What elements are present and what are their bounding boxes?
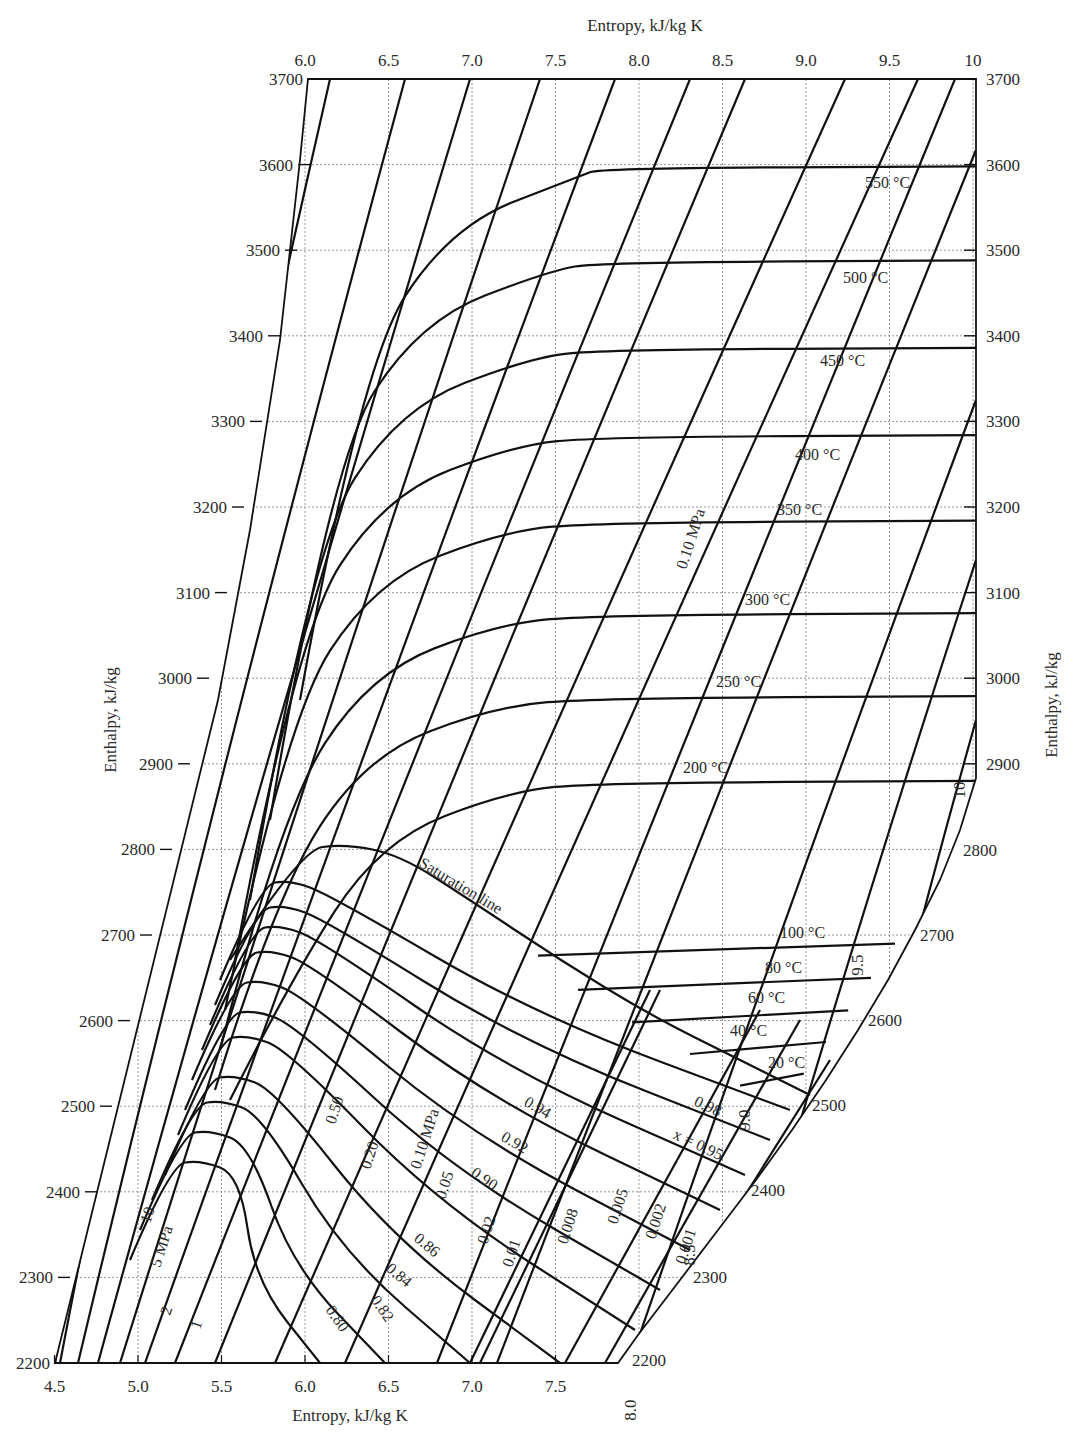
top-x-tick-label: 6.0 xyxy=(294,51,315,70)
isobar-label: 0.20 xyxy=(357,1139,382,1171)
quality-line xyxy=(215,907,770,1140)
right-y-tick-label: 3700 xyxy=(986,70,1020,89)
right-y-tick-label: 3100 xyxy=(986,584,1020,603)
isotherm-label: 400 °C xyxy=(795,446,840,463)
bottom-x-tick-label: 7.5 xyxy=(545,1377,566,1396)
isobar-label: 0.008 xyxy=(554,1206,581,1245)
right-y-tick-label: 3400 xyxy=(986,327,1020,346)
low-pressure-isobar xyxy=(480,990,660,1363)
left-y-tick-label: 2300 xyxy=(19,1268,53,1287)
right-y-tick-label: 3000 xyxy=(986,669,1020,688)
isotherm-label: 20 °C xyxy=(768,1054,805,1071)
isobar-label: 0.05 xyxy=(432,1169,457,1201)
left-y-tick-label: 3100 xyxy=(176,584,210,603)
isotherm-label: 500 °C xyxy=(843,269,888,286)
left-y-tick-label: 3400 xyxy=(229,327,263,346)
isotherm-label: 250 °C xyxy=(716,673,761,690)
top-x-tick-label: 10 xyxy=(965,51,982,70)
quality-label: 0.90 xyxy=(468,1164,501,1194)
bottom-x-tick-label: 5.0 xyxy=(127,1377,148,1396)
left-y-tick-label: 2700 xyxy=(101,926,135,945)
left-y-tick-label: 3600 xyxy=(259,156,293,175)
bottom-x-tick-label: 7.0 xyxy=(461,1377,482,1396)
right-y-tick-label: 3500 xyxy=(986,241,1020,260)
top-x-axis-title: Entropy, kJ/kg K xyxy=(587,16,703,35)
isobar-label: 0.01 xyxy=(499,1237,524,1269)
right-slant-x-tick-label: 9.5 xyxy=(848,954,867,975)
isotherm-line xyxy=(225,521,976,1010)
isobar-line xyxy=(345,79,918,1363)
left-y-tick-label: 2900 xyxy=(139,755,173,774)
right-y-axis-title: Enthalpy, kJ/kg xyxy=(1042,652,1061,758)
bottom-x-axis-title: Entropy, kJ/kg K xyxy=(292,1406,408,1425)
left-y-tick-label: 3700 xyxy=(269,70,303,89)
isobar-line xyxy=(940,1270,976,1363)
low-temp-isotherm xyxy=(578,978,871,990)
isobar-line xyxy=(900,1120,976,1363)
quality-line xyxy=(210,927,745,1175)
low-temp-isotherm xyxy=(538,944,895,956)
saturation-line-label: Saturation line xyxy=(416,854,505,917)
isobar-line xyxy=(78,79,405,1363)
isotherm-label: 80 °C xyxy=(765,959,802,976)
isotherm-line xyxy=(215,696,976,1090)
top-x-tick-label: 7.5 xyxy=(545,51,566,70)
quality-label: 0.80 xyxy=(323,1302,353,1335)
left-y-tick-label: 2200 xyxy=(16,1354,50,1373)
quality-line xyxy=(165,1077,560,1363)
right-slant-x-tick-label: 9.0 xyxy=(735,1109,754,1130)
bottom-x-tick-label: 4.5 xyxy=(44,1377,65,1396)
right-y-tick-label: 3200 xyxy=(986,498,1020,517)
left-y-tick-label: 3500 xyxy=(246,241,280,260)
chart-curves xyxy=(55,79,976,1363)
isotherm-label: 40 °C xyxy=(730,1022,767,1039)
right-slant-y-tick-label: 2700 xyxy=(920,926,954,945)
isobar-line xyxy=(145,79,615,1363)
left-y-tick-label: 2500 xyxy=(61,1097,95,1116)
left-y-tick-label: 2400 xyxy=(46,1183,80,1202)
right-y-tick-label: 3600 xyxy=(986,156,1020,175)
quality-label: 0.92 xyxy=(499,1128,532,1157)
top-x-tick-label: 9.5 xyxy=(879,51,900,70)
isobar-label: 0.02 xyxy=(474,1214,499,1246)
left-y-axis-title: Enthalpy, kJ/kg xyxy=(101,667,120,773)
isobar-line xyxy=(815,720,976,1363)
right-y-tick-label: 2900 xyxy=(986,755,1020,774)
isobar-label: 0.002 xyxy=(642,1201,669,1240)
chart-frame xyxy=(55,79,976,1363)
isobar-line xyxy=(175,79,690,1363)
left-y-tick-label: 3200 xyxy=(193,498,227,517)
right-slant-y-tick-label: 2300 xyxy=(693,1268,727,1287)
quality-label: 0.86 xyxy=(411,1229,443,1260)
isotherm-label: 60 °C xyxy=(748,989,785,1006)
mollier-chart: 6.06.57.07.58.08.59.09.5104.55.05.56.06.… xyxy=(0,0,1083,1449)
top-x-tick-label: 7.0 xyxy=(461,51,482,70)
top-x-tick-label: 8.0 xyxy=(628,51,649,70)
chart-boundary xyxy=(55,79,976,1363)
low-pressure-isobar xyxy=(640,1060,830,1363)
quality-label: 0.94 xyxy=(522,1093,555,1122)
right-slant-y-tick-label: 2400 xyxy=(751,1181,785,1200)
right-slant-x-tick-label: 10 xyxy=(950,782,969,799)
isotherm-label: 550 °C xyxy=(865,174,910,191)
top-x-tick-label: 9.0 xyxy=(795,51,816,70)
left-y-tick-label: 2600 xyxy=(79,1012,113,1031)
isobar-label: 0.10 MPa xyxy=(407,1106,442,1170)
isobar-label: 5 MPa xyxy=(147,1224,176,1269)
isotherm-label: 200 °C xyxy=(683,759,728,776)
right-slant-y-tick-label: 2500 xyxy=(812,1096,846,1115)
isobar-upper-label: 0.10 MPa xyxy=(673,506,708,570)
left-y-tick-label: 2800 xyxy=(121,840,155,859)
isobar-label: 0.50 xyxy=(322,1094,347,1126)
bottom-x-tick-label: 6.0 xyxy=(294,1377,315,1396)
isotherm-label: 300 °C xyxy=(745,591,790,608)
bottom-x-tick-label: 6.5 xyxy=(378,1377,399,1396)
isotherm-label: 350 °C xyxy=(777,501,822,518)
right-y-tick-label: 3300 xyxy=(986,412,1020,431)
isotherm-label: 100 °C xyxy=(780,924,825,941)
right-slant-x-tick-label: 8.0 xyxy=(621,1399,640,1420)
isobar-label: 0.005 xyxy=(604,1186,631,1225)
isotherm-line xyxy=(300,166,976,700)
right-slant-y-tick-label: 2800 xyxy=(963,841,997,860)
right-slant-y-tick-label: 2200 xyxy=(632,1351,666,1370)
